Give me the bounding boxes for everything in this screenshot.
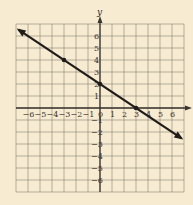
x-tick-label: −4: [47, 110, 59, 119]
data-point: [98, 82, 103, 87]
y-tick-label: −3: [91, 140, 103, 149]
x-tick-label: 1: [110, 110, 115, 119]
y-tick-label: −4: [91, 152, 103, 161]
y-tick-label: −2: [91, 128, 103, 137]
arrowhead-left-icon: [17, 29, 26, 37]
x-tick-label: 3: [134, 110, 139, 119]
y-tick-label: 5: [94, 44, 99, 53]
x-tick-label: −3: [59, 110, 71, 119]
x-tick-label: 5: [158, 110, 163, 119]
y-tick-label: 1: [94, 92, 99, 101]
y-tick-label: 4: [94, 56, 99, 65]
coordinate-plane-chart: −6−5−4−3−2−10123456−6−5−4−3−2−1123456 x …: [0, 0, 193, 205]
arrowhead-right-icon: [174, 132, 183, 140]
data-point: [62, 58, 67, 63]
y-axis-arrow-icon: [98, 16, 103, 23]
axes: [16, 16, 192, 192]
y-tick-label: −6: [91, 176, 103, 185]
data-point: [134, 106, 139, 111]
y-axis-label: y: [96, 7, 103, 17]
x-tick-label: 6: [170, 110, 175, 119]
x-tick-label: −6: [23, 110, 35, 119]
x-tick-label: −5: [35, 110, 47, 119]
x-axis-arrow-icon: [185, 106, 192, 111]
y-tick-label: 6: [94, 32, 99, 41]
y-tick-label: −1: [91, 116, 103, 125]
x-tick-label: 2: [122, 110, 127, 119]
y-tick-label: −5: [91, 164, 103, 173]
x-tick-label: −2: [71, 110, 83, 119]
y-tick-label: 3: [94, 68, 99, 77]
